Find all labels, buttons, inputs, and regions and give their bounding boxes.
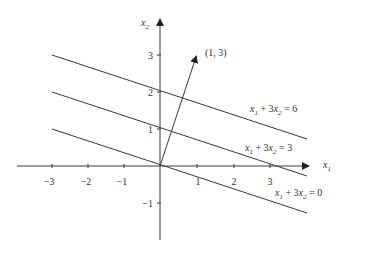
equation-label-3: x1 + 3x2 = 3	[244, 142, 292, 156]
y-tick-label: 3	[148, 50, 153, 61]
vector-label: (1, 3)	[205, 47, 227, 59]
equation-label-0: x1 + 3x2 = 0	[274, 187, 322, 201]
y-tick-label: 2	[148, 87, 153, 98]
x-axis-label: x1	[322, 159, 331, 173]
equation-label-6: x1 + 3x2 = 6	[249, 103, 297, 117]
x-tick-label: −2	[81, 176, 92, 187]
x-tick-label: −3	[44, 176, 55, 187]
normal-vector-arrow	[160, 57, 196, 166]
diagram-canvas: −3 −2 −1 1 2 3 3 2 1 −1 x2 x1 (1, 3) x1 …	[0, 0, 372, 253]
level-line-6	[52, 55, 307, 139]
y-tick-label: 1	[148, 124, 153, 135]
x-tick-label: −1	[117, 176, 128, 187]
y-axis-label: x2	[140, 17, 149, 31]
x-tick-label: 2	[232, 176, 237, 187]
x-tick-label: 3	[268, 176, 273, 187]
y-tick-label: −1	[142, 198, 153, 209]
